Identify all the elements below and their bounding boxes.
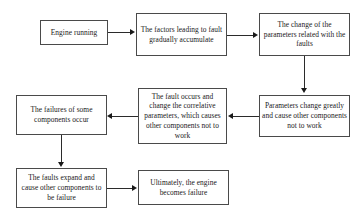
node-faults-expand[interactable]: The faults expand and cause other compon… [16,168,107,208]
node-label: The failures of some components occur [19,105,104,125]
arrowhead-engine-running-to-factors [130,29,135,35]
node-factors-leading-to-fault[interactable]: The factors leading to fault gradually a… [136,13,227,56]
arrowhead-factors-to-change-of-parameters [253,32,258,38]
connector-change-of-parameters-to-parameters-change [304,56,305,89]
node-label: The faults expand and cause other compon… [19,173,104,202]
arrowhead-failures-to-faults-expand [58,162,64,167]
node-label: The change of the parameters related wit… [262,20,347,49]
flowchart-canvas: Engine running The factors leading to fa… [0,0,363,219]
node-failures-of-components[interactable]: The failures of some components occur [16,95,107,135]
arrowhead-faults-expand-to-engine-failure [132,185,137,191]
node-parameters-change-greatly[interactable]: Parameters change greatly and cause othe… [259,95,350,137]
connector-failures-to-faults-expand [61,135,62,163]
node-engine-running[interactable]: Engine running [40,20,108,45]
node-fault-occurs-correlative[interactable]: The fault occurs and change the correlat… [138,88,227,144]
node-label: The factors leading to fault gradually a… [139,25,224,45]
node-change-of-parameters[interactable]: The change of the parameters related wit… [259,13,350,56]
arrowhead-parameters-change-to-fault-occurs [228,113,233,119]
node-label: The fault occurs and change the correlat… [141,92,224,141]
node-label: Engine running [43,28,105,38]
arrowhead-fault-occurs-to-failures [107,113,112,119]
node-label: Ultimately, the engine becomes failure [141,178,226,198]
connector-engine-running-to-factors [108,32,131,33]
node-label: Parameters change greatly and cause othe… [262,101,347,130]
node-engine-becomes-failure[interactable]: Ultimately, the engine becomes failure [138,170,229,205]
connector-fault-occurs-to-failures [112,116,138,117]
connector-factors-to-change-of-parameters [227,35,254,36]
connector-parameters-change-to-fault-occurs [233,116,259,117]
connector-faults-expand-to-engine-failure [107,188,133,189]
arrowhead-change-of-parameters-to-parameters-change [301,88,307,93]
